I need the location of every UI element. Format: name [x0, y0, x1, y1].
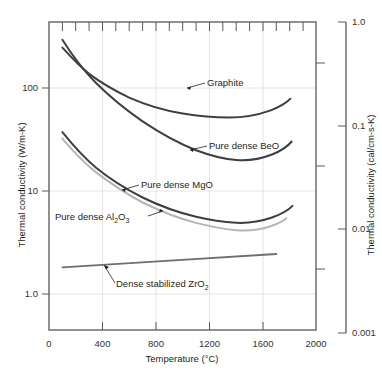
- xtick-label-1600: 1600: [252, 338, 273, 349]
- x-axis-title: Temperature (°C): [146, 353, 219, 364]
- xtick-label-0: 0: [46, 338, 51, 349]
- annotation-beo: Pure dense BeO: [209, 140, 279, 151]
- right-axis-ticks: [338, 22, 346, 333]
- rtick-label-1: 1.0: [352, 16, 365, 27]
- xtick-label-400: 400: [95, 338, 111, 349]
- rtick-label-0p001: 0.001: [352, 327, 376, 338]
- annotation-al2o3: Pure dense Al2O3: [55, 211, 129, 224]
- chart-svg: 100 10 1.0 0 400 800 1200 1600 2000 1.0 …: [0, 0, 382, 377]
- right-frame-stub-ticks: [316, 63, 325, 269]
- ytick-label-100: 100: [22, 82, 38, 93]
- rtick-label-0p1: 0.1: [352, 120, 365, 131]
- annotation-al2o3-sub2: 3: [125, 217, 129, 224]
- annotation-al2o3-mid: O: [118, 211, 125, 222]
- annotation-zro2-sub: 2: [205, 284, 209, 291]
- annotation-zro2-prefix: Dense stabilized ZrO: [116, 278, 205, 289]
- thermal-conductivity-chart-figure: 100 10 1.0 0 400 800 1200 1600 2000 1.0 …: [0, 0, 382, 377]
- annotation-mgo: Pure dense MgO: [141, 179, 213, 190]
- bottom-axis-ticks: [103, 322, 264, 330]
- annotation-graphite: Graphite: [207, 77, 243, 88]
- xtick-label-1200: 1200: [199, 338, 220, 349]
- annotation-zro2: Dense stabilized ZrO2: [116, 278, 209, 291]
- ytick-label-10: 10: [27, 185, 38, 196]
- xtick-label-2000: 2000: [305, 338, 326, 349]
- left-axis-ticks: [42, 88, 49, 294]
- top-axis-minor-ticks: [62, 22, 303, 31]
- xtick-label-800: 800: [148, 338, 164, 349]
- curve-zro2: [62, 254, 276, 267]
- y-axis-title-left: Thermal conductivity (W/m-K): [16, 122, 27, 247]
- data-curves: [62, 40, 292, 267]
- y-axis-title-right: Thermal conductivity (cal/cm-s-K): [365, 115, 376, 256]
- ytick-label-1: 1.0: [25, 288, 38, 299]
- annotation-al2o3-prefix: Pure dense Al: [55, 211, 114, 222]
